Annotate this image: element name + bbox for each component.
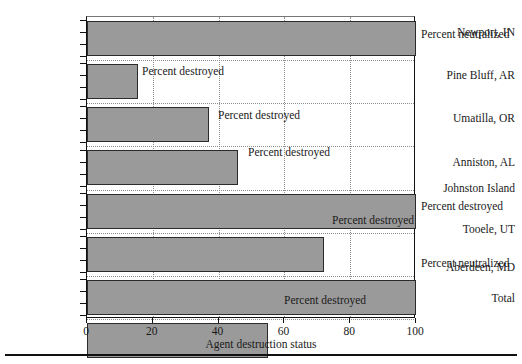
bar-row-tooele bbox=[87, 233, 414, 276]
plot-area bbox=[86, 16, 415, 318]
bottom-divider bbox=[5, 354, 517, 356]
annotation-umatilla: Percent destroyed bbox=[218, 109, 300, 121]
annotation-johnston-island: Percent destroyed bbox=[421, 200, 503, 212]
y-axis-label-5: Tooele, UT bbox=[436, 223, 522, 235]
bar-aberdeen bbox=[87, 280, 416, 315]
bar-rows bbox=[87, 17, 414, 317]
y-axis-label-4: Johnston Island bbox=[436, 182, 522, 194]
x-axis-tick-label-40: 40 bbox=[198, 325, 238, 338]
bar-pine-bluff bbox=[87, 64, 138, 99]
x-axis-tick-0 bbox=[86, 318, 87, 323]
annotation-aberdeen: Percent neutralized bbox=[421, 257, 509, 269]
bar-row-pine-bluff bbox=[87, 60, 414, 103]
x-axis-tick-label-60: 60 bbox=[263, 325, 303, 338]
x-axis-tick-label-80: 80 bbox=[329, 325, 369, 338]
annotation-anniston: Percent destroyed bbox=[248, 146, 330, 158]
annotation-tooele: Percent destroyed bbox=[332, 214, 414, 226]
y-axis-label-1: Pine Bluff, AR bbox=[436, 69, 522, 81]
x-axis-tick-label-100: 100 bbox=[395, 325, 435, 338]
chart-figure: Newport, IN Pine Bluff, AR Umatilla, OR … bbox=[0, 0, 522, 364]
bar-umatilla bbox=[87, 107, 209, 142]
x-axis-tick-label-20: 20 bbox=[132, 325, 172, 338]
y-axis-label-3: Anniston, AL bbox=[436, 156, 522, 168]
annotation-pine-bluff: Percent destroyed bbox=[142, 65, 224, 77]
bar-tooele bbox=[87, 237, 324, 272]
bar-row-newport bbox=[87, 17, 414, 60]
bar-newport bbox=[87, 21, 416, 56]
x-axis-tick-100 bbox=[415, 318, 416, 323]
x-axis-tick-40 bbox=[218, 318, 219, 323]
x-axis-tick-label-0: 0 bbox=[66, 325, 106, 338]
annotation-total: Percent destroyed bbox=[284, 294, 366, 306]
x-axis-tick-60 bbox=[283, 318, 284, 323]
bar-row-johnston-island bbox=[87, 190, 414, 233]
bar-anniston bbox=[87, 150, 238, 185]
x-axis-title: Agent destruction status bbox=[0, 338, 522, 351]
y-axis-label-7: Total bbox=[436, 292, 522, 304]
y-axis-label-2: Umatilla, OR bbox=[436, 112, 522, 124]
annotation-newport: Percent neutralized bbox=[421, 28, 509, 40]
x-axis-tick-80 bbox=[349, 318, 350, 323]
x-axis-tick-20 bbox=[152, 318, 153, 323]
